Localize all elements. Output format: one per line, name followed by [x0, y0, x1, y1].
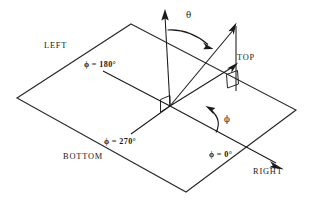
projection-ray-line — [170, 67, 234, 107]
diagram-canvas: θ ϕ TOP LEFT RIGHT BOTTOM ϕ = 180° ϕ = 2… — [0, 0, 312, 206]
theta-arc — [168, 30, 209, 45]
phi-label: ϕ — [224, 114, 230, 124]
left-label: LEFT — [44, 41, 67, 50]
direction-vector-arrowhead — [228, 23, 236, 35]
phi-180-label: ϕ = 180° — [84, 60, 116, 69]
spherical-coordinate-diagram: θ ϕ TOP LEFT RIGHT BOTTOM ϕ = 180° ϕ = 2… — [0, 0, 312, 206]
phi-0-label: ϕ = 0° — [209, 150, 232, 159]
right-label: RIGHT — [253, 167, 283, 176]
top-label: TOP — [237, 53, 255, 62]
phi-270-label: ϕ = 270° — [104, 137, 136, 146]
origin-marker-top-edge — [161, 96, 171, 100]
phi-270-ray-line — [131, 106, 170, 134]
theta-label: θ — [186, 10, 192, 20]
phi-180-ray-line — [103, 71, 170, 106]
theta-arc-arrowhead — [203, 42, 214, 49]
bottom-label: BOTTOM — [63, 152, 103, 161]
